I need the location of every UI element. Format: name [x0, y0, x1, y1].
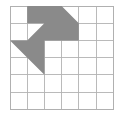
- figure-root: [0, 0, 132, 127]
- grid-and-shape-canvas: [0, 0, 132, 127]
- arrow-polygon-path: [10, 6, 79, 75]
- gray-arrow-polygon: [10, 6, 79, 75]
